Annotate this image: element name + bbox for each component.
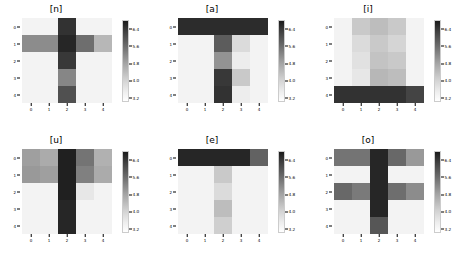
colorbar: 6.45.64.84.03.2 <box>122 151 129 233</box>
y-axis-tick-label: 2 <box>169 189 172 194</box>
x-axis-tick: 2 <box>222 103 225 112</box>
heatmap-cell <box>352 86 370 103</box>
y-axis-tick-label: 2 <box>13 189 16 194</box>
heatmap-cell <box>40 183 58 200</box>
heatmap-cell <box>232 35 250 52</box>
heatmap-cell <box>22 183 40 200</box>
x-axis-tick-label: 2 <box>66 107 69 112</box>
x-axis-tick-mark <box>360 103 361 106</box>
colorbar-tick-label: 4.0 <box>289 209 296 214</box>
x-axis-tick-mark <box>378 234 379 237</box>
x-axis-tick-mark <box>102 103 103 106</box>
x-axis-tick-mark <box>342 234 343 237</box>
heatmap-cell <box>40 200 58 217</box>
heatmap-cell <box>40 35 58 52</box>
heatmap-cell <box>196 217 214 234</box>
y-axis-tick: 2 <box>169 189 176 194</box>
y-axis-tick-mark <box>17 77 20 78</box>
x-axis-tick-label: 4 <box>102 238 105 243</box>
heatmap-cell <box>58 35 76 52</box>
y-axis-tick-label: 1 <box>325 41 328 46</box>
panel-title: [u] <box>0 135 112 146</box>
x-axis-tick-mark <box>240 234 241 237</box>
plot-area: 0123401234 <box>334 18 424 103</box>
heatmap-cell <box>196 35 214 52</box>
heatmap-cell <box>406 86 424 103</box>
heatmap-cell <box>352 149 370 166</box>
colorbar-tick: 5.6 <box>285 174 295 179</box>
x-axis-tick-mark <box>258 234 259 237</box>
x-axis-tick-label: 4 <box>258 107 261 112</box>
y-axis-tick: 0 <box>325 155 332 160</box>
y-axis-tick-mark <box>17 174 20 175</box>
y-axis-tick-label: 1 <box>13 172 16 177</box>
heatmap-cell <box>334 35 352 52</box>
heatmap-cell <box>22 69 40 86</box>
x-axis-tick-label: 1 <box>360 107 363 112</box>
heatmap-cell <box>370 52 388 69</box>
heatmap-cell <box>196 183 214 200</box>
heatmap-cell <box>94 86 112 103</box>
heatmap-cell <box>370 18 388 35</box>
heatmap-cell <box>250 166 268 183</box>
y-axis-tick-label: 0 <box>169 155 172 160</box>
heatmap-cell <box>22 149 40 166</box>
heatmap-grid <box>178 149 268 234</box>
x-axis-tick-label: 3 <box>396 238 399 243</box>
plot-area: 0123401234 <box>22 18 112 103</box>
heatmap-cell <box>250 35 268 52</box>
heatmap-cell <box>76 69 94 86</box>
y-axis-tick: 0 <box>169 155 176 160</box>
colorbar-tick-label: 3.2 <box>445 226 452 231</box>
y-axis-tick: 1 <box>325 172 332 177</box>
x-axis-tick: 3 <box>396 234 399 243</box>
heatmap-cell <box>370 69 388 86</box>
heatmap-cell <box>232 200 250 217</box>
y-axis-tick-label: 4 <box>13 92 16 97</box>
heatmap-cell <box>76 200 94 217</box>
heatmap-cell <box>76 86 94 103</box>
y-axis-tick: 2 <box>13 189 20 194</box>
x-axis-tick-label: 2 <box>222 107 225 112</box>
colorbar: 6.45.64.84.03.2 <box>278 20 285 102</box>
heatmap-cell <box>232 183 250 200</box>
x-axis-tick-mark <box>186 234 187 237</box>
heatmap-cell <box>196 69 214 86</box>
colorbar-tick-label: 4.8 <box>289 61 296 66</box>
heatmap-cell <box>388 52 406 69</box>
x-axis-tick: 0 <box>186 103 189 112</box>
y-axis-tick: 4 <box>169 223 176 228</box>
heatmap-cell <box>196 149 214 166</box>
x-axis-tick: 4 <box>258 234 261 243</box>
heatmap-cell <box>352 183 370 200</box>
colorbar-tick-mark <box>285 46 288 47</box>
heatmap-cell <box>250 18 268 35</box>
colorbar-tick: 4.0 <box>129 78 139 83</box>
x-axis-tick-label: 3 <box>84 107 87 112</box>
heatmap-cell <box>406 35 424 52</box>
x-axis-tick-mark <box>204 103 205 106</box>
y-axis-tick-mark <box>173 60 176 61</box>
colorbar-tick-mark <box>441 177 444 178</box>
x-axis-tick: 1 <box>204 234 207 243</box>
heatmap-cell <box>388 69 406 86</box>
colorbar-tick: 4.0 <box>441 209 451 214</box>
x-axis-tick-label: 1 <box>48 107 51 112</box>
heatmap-cell <box>40 18 58 35</box>
y-axis-tick-label: 4 <box>169 223 172 228</box>
x-axis-tick-label: 0 <box>186 107 189 112</box>
heatmap-cell <box>352 217 370 234</box>
heatmap-cell <box>352 35 370 52</box>
heatmap-cell <box>22 166 40 183</box>
heatmap-cell <box>214 166 232 183</box>
colorbar-tick-label: 4.0 <box>445 78 452 83</box>
x-axis-tick-label: 1 <box>48 238 51 243</box>
x-axis-tick-label: 2 <box>378 107 381 112</box>
y-axis-tick: 2 <box>13 58 20 63</box>
colorbar-gradient <box>278 20 285 102</box>
y-axis-tick-label: 3 <box>13 206 16 211</box>
heatmap-cell <box>370 166 388 183</box>
heatmap-cell <box>178 18 196 35</box>
y-axis-tick-mark <box>329 43 332 44</box>
y-axis-tick-mark <box>173 157 176 158</box>
